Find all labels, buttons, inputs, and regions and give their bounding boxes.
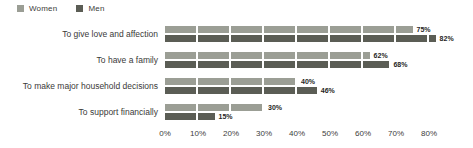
- category-label: To make major household decisions: [0, 78, 165, 94]
- category-label: To have a family: [0, 52, 165, 68]
- bar-line-women: 30%: [165, 104, 473, 111]
- bar-group: 62%68%: [165, 52, 473, 68]
- axis-tick-label: 30%: [256, 129, 272, 138]
- bar-women: [165, 104, 264, 111]
- value-label: 30%: [268, 104, 282, 111]
- value-label: 62%: [374, 52, 388, 59]
- bar-women: [165, 78, 297, 85]
- axis-tick-label: 70%: [388, 129, 404, 138]
- bar-line-men: 82%: [165, 35, 473, 42]
- legend-item-men: Men: [76, 4, 104, 13]
- value-label: 46%: [321, 87, 335, 94]
- chart-row: To give love and affection75%82%: [0, 26, 473, 42]
- bar-men: [165, 61, 389, 68]
- bar-group: 75%82%: [165, 26, 473, 42]
- legend-swatch-women: [17, 5, 24, 12]
- chart-row: To have a family62%68%: [0, 52, 473, 68]
- value-label: 82%: [440, 35, 454, 42]
- bar-line-men: 15%: [165, 113, 473, 120]
- axis-tick-label: 50%: [322, 129, 338, 138]
- legend-swatch-men: [76, 5, 83, 12]
- bar-line-women: 40%: [165, 78, 473, 85]
- legend-item-women: Women: [17, 4, 57, 13]
- legend: Women Men: [17, 4, 105, 13]
- axis-tick-label: 40%: [289, 129, 305, 138]
- chart-row: To make major household decisions40%46%: [0, 78, 473, 94]
- value-label: 68%: [393, 61, 407, 68]
- x-axis: 0%10%20%30%40%50%60%70%80%: [165, 129, 465, 141]
- legend-label-men: Men: [88, 4, 104, 13]
- value-label: 75%: [417, 26, 431, 33]
- axis-tick-label: 60%: [355, 129, 371, 138]
- axis-tick-label: 80%: [421, 129, 437, 138]
- axis-tick-label: 20%: [223, 129, 239, 138]
- bar-line-men: 46%: [165, 87, 473, 94]
- category-label: To support financially: [0, 104, 165, 120]
- bar-men: [165, 87, 317, 94]
- legend-label-women: Women: [29, 4, 57, 13]
- bar-chart: Women Men To give love and affection75%8…: [0, 0, 473, 148]
- bar-group: 30%15%: [165, 104, 473, 120]
- bar-men: [165, 113, 215, 120]
- chart-row: To support financially30%15%: [0, 104, 473, 120]
- axis-tick-label: 10%: [190, 129, 206, 138]
- bar-men: [165, 35, 436, 42]
- bar-line-men: 68%: [165, 61, 473, 68]
- category-label: To give love and affection: [0, 26, 165, 42]
- value-label: 15%: [219, 113, 233, 120]
- axis-tick-label: 0%: [159, 129, 171, 138]
- bar-line-women: 62%: [165, 52, 473, 59]
- bar-line-women: 75%: [165, 26, 473, 33]
- bar-group: 40%46%: [165, 78, 473, 94]
- chart-rows: To give love and affection75%82%To have …: [0, 26, 473, 130]
- bar-women: [165, 26, 413, 33]
- value-label: 40%: [301, 78, 315, 85]
- bar-women: [165, 52, 370, 59]
